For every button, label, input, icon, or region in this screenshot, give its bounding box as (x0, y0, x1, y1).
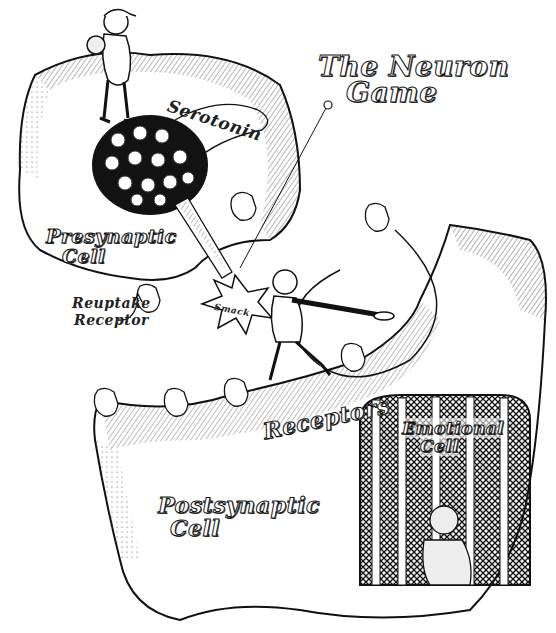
reuptake-label-line1: Reuptake (72, 295, 151, 311)
game-title-line2: Game (346, 76, 438, 109)
emotional-cell-label-line1: Emotional (402, 418, 504, 438)
emotional-cell-label-line2: Cell (420, 436, 459, 456)
presynaptic-label-line1: Presynaptic (46, 225, 177, 247)
reuptake-label-line2: Receptor (74, 312, 149, 328)
smack-starburst (202, 275, 272, 334)
presynaptic-label-line2: Cell (62, 245, 106, 267)
serotonin-vesicle (92, 115, 208, 215)
postsynaptic-label-line2: Cell (170, 515, 220, 541)
